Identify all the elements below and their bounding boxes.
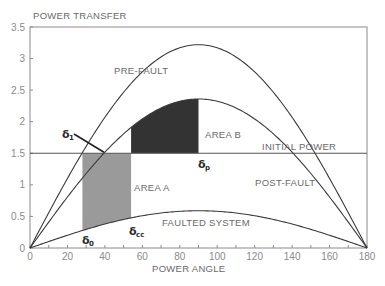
initial-power-label: INITIAL POWER — [262, 141, 336, 152]
svg-text:180: 180 — [359, 251, 376, 262]
delta-0-label: δ 0 — [82, 234, 94, 248]
svg-text:0: 0 — [89, 240, 94, 248]
svg-text:1.5: 1.5 — [11, 148, 25, 159]
svg-text:p: p — [205, 164, 210, 172]
svg-text:1: 1 — [19, 179, 25, 190]
post-fault-label: POST-FAULT — [255, 177, 315, 188]
y-axis-title: POWER TRANSFER — [33, 10, 127, 21]
delta-1-pointer-arrow — [74, 134, 104, 152]
svg-text:0: 0 — [27, 251, 33, 262]
faulted-system-label: FAULTED SYSTEM — [162, 217, 250, 228]
svg-text:40: 40 — [99, 251, 111, 262]
svg-text:20: 20 — [62, 251, 74, 262]
svg-text:2: 2 — [19, 116, 25, 127]
svg-text:160: 160 — [321, 251, 338, 262]
power-angle-chart: 020406080100120140160180 00.511.522.533.… — [0, 0, 385, 286]
svg-text:cc: cc — [136, 231, 144, 239]
svg-text:120: 120 — [246, 251, 263, 262]
svg-text:3.5: 3.5 — [11, 22, 25, 33]
delta-cc-label: δ cc — [129, 225, 144, 239]
area-b-shading — [131, 99, 198, 153]
pre-fault-label: PRE-FAULT — [114, 65, 168, 76]
svg-text:140: 140 — [284, 251, 301, 262]
svg-text:3: 3 — [19, 53, 25, 64]
area-b-label: AREA B — [205, 129, 241, 140]
svg-text:100: 100 — [209, 251, 226, 262]
svg-text:1: 1 — [69, 134, 74, 142]
delta-p-label: δ p — [198, 158, 210, 172]
svg-text:0.5: 0.5 — [11, 211, 25, 222]
svg-text:60: 60 — [137, 251, 149, 262]
x-axis-title: POWER ANGLE — [152, 263, 226, 274]
delta-1-label: δ 1 — [62, 128, 74, 142]
area-a-label: AREA A — [134, 182, 170, 193]
svg-text:80: 80 — [174, 251, 186, 262]
svg-text:2.5: 2.5 — [11, 85, 25, 96]
svg-text:0: 0 — [19, 243, 25, 254]
